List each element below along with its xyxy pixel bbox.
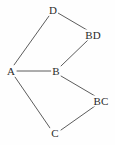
graph-edge-a-c [15,77,50,128]
graph-edge-a-d [14,16,49,65]
graph-node-c: C [50,128,59,139]
graph-node-d: D [48,5,58,16]
graph-node-a: A [6,66,16,77]
graph-diagram: ABCDBDBC [0,0,115,145]
graph-edge-b-bc [61,76,95,96]
graph-edge-c-bc [61,106,95,130]
graph-node-bc: BC [93,96,110,107]
graph-node-bd: BD [84,30,101,41]
graph-edge-d-bd [58,13,87,30]
graph-node-b: B [51,66,60,77]
graph-edge-b-bd [61,40,88,66]
